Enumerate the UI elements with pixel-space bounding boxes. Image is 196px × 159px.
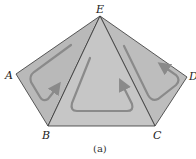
vertex-label-d: D — [188, 70, 196, 83]
pentagon-circulation-diagram: E A B C D (a) — [0, 0, 196, 159]
vertex-label-c: C — [153, 129, 162, 142]
vertex-label-e: E — [95, 3, 104, 16]
vertex-label-a: A — [4, 69, 13, 82]
vertex-label-b: B — [41, 129, 50, 142]
figure-caption: (a) — [93, 143, 107, 154]
